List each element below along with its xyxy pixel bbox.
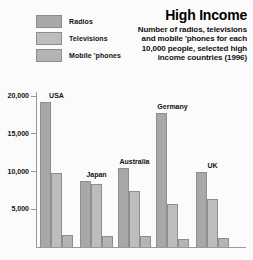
subtitle-line-2: and mobile 'phones for each — [107, 34, 247, 43]
bar-radios — [40, 102, 51, 247]
subtitle-line-1: Number of radios, televisions — [107, 25, 247, 34]
y-axis-tick-label: 20,000 — [8, 91, 29, 101]
bar-group-label: Australia — [120, 158, 150, 166]
bar-tv — [167, 204, 178, 247]
bar-group: Japan — [80, 83, 113, 247]
bar-tv — [91, 184, 102, 247]
y-axis-tick: 20,000 — [0, 91, 36, 101]
bar-group: UK — [196, 83, 229, 247]
bar-group: USA — [40, 83, 73, 247]
chart-figure: Radios Televisions Mobile 'phones High I… — [0, 0, 253, 260]
legend-label-televisions: Televisions — [69, 34, 108, 43]
title-block: High Income Number of radios, television… — [107, 8, 247, 63]
y-axis-tick-label: 10,000 — [8, 167, 29, 177]
legend-swatch-radios — [36, 15, 62, 28]
bar-tv — [51, 173, 62, 247]
y-axis-tick: 5,000 — [0, 204, 36, 214]
bar-tv — [207, 199, 218, 247]
subtitle-line-3: 10,000 people, selected high — [107, 44, 247, 53]
subtitle-line-4: income countries (1996) — [107, 53, 247, 62]
y-axis-tick-label: 5,000 — [11, 204, 29, 214]
chart-header: Radios Televisions Mobile 'phones High I… — [0, 0, 253, 70]
y-axis-tick: 10,000 — [0, 167, 36, 177]
bar-group-label: UK — [207, 162, 217, 170]
chart-plot-area: 20,00015,00010,0005,000 USAJapanAustrali… — [0, 70, 253, 260]
bar-tv — [129, 191, 140, 247]
legend-label-radios: Radios — [69, 17, 93, 26]
chart-subtitle: Number of radios, televisions and mobile… — [107, 25, 247, 63]
bar-radios — [196, 172, 207, 248]
bar-radios — [118, 168, 129, 247]
bar-group: Germany — [156, 83, 189, 247]
bar-radios — [156, 113, 167, 247]
bar-mobile — [218, 238, 229, 247]
y-axis-tick: 15,000 — [0, 129, 36, 139]
bar-groups: USAJapanAustraliaGermanyUK — [36, 70, 248, 260]
legend-swatch-mobile-phones — [36, 49, 62, 62]
bar-radios — [80, 181, 91, 247]
bar-mobile — [62, 235, 73, 247]
bar-group-label: USA — [49, 92, 64, 100]
bar-mobile — [102, 236, 113, 247]
bar-mobile — [140, 236, 151, 247]
chart-title: High Income — [107, 8, 247, 23]
bar-group-label: Germany — [157, 103, 187, 111]
legend-swatch-televisions — [36, 32, 62, 45]
bar-group-label: Japan — [86, 171, 106, 179]
y-axis-tick-label: 15,000 — [8, 129, 29, 139]
bar-group: Australia — [118, 83, 151, 247]
bar-mobile — [178, 239, 189, 247]
